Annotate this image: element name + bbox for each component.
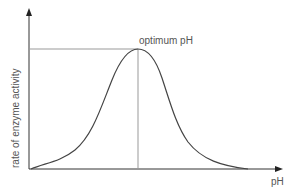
x-axis-label: pH	[271, 176, 284, 187]
y-axis-label: rate of enzyme activity	[10, 69, 21, 168]
x-axis-arrow-icon	[275, 166, 283, 172]
enzyme-ph-diagram: optimum pH pH rate of enzyme activity	[0, 0, 295, 190]
optimum-ph-label: optimum pH	[139, 35, 193, 46]
enzyme-activity-curve	[31, 49, 248, 169]
y-axis-arrow-icon	[26, 8, 32, 16]
